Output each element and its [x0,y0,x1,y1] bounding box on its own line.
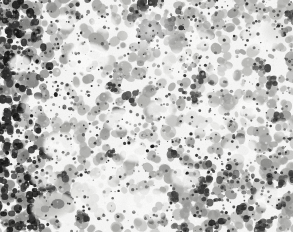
micrograph-page [0,0,303,241]
micrograph-canvas [0,0,293,232]
bottom-white-margin [0,232,303,241]
right-white-margin [293,0,303,241]
micrograph-image [0,0,293,232]
film-grain-overlay [0,0,293,232]
